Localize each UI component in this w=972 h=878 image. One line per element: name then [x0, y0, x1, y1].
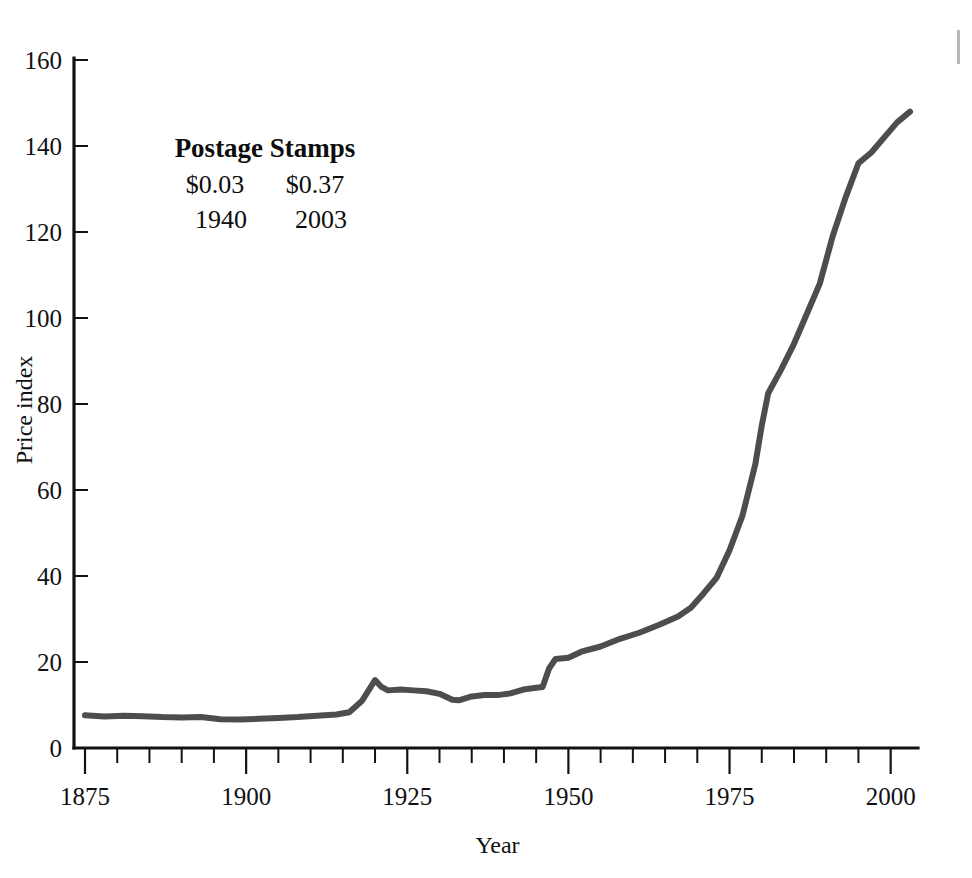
data-series-group [85, 112, 910, 720]
price-index-line-chart: 020406080100120140160 187519001925195019… [0, 0, 972, 878]
y-axis-tick-label: 0 [50, 735, 63, 762]
y-axis-tick-label: 20 [37, 649, 62, 676]
x-axis-tick-label: 1950 [543, 783, 593, 810]
x-axis-tick-label: 2000 [866, 783, 916, 810]
postage-stamps-annotation: Postage Stamps$0.031940$0.372003 [175, 133, 356, 234]
x-axis-title: Year [475, 832, 519, 858]
x-axis-tick-label: 1900 [221, 783, 271, 810]
y-axis-tick-label: 160 [25, 47, 63, 74]
y-axis-title: Price index [11, 356, 37, 465]
y-axis-tick-label: 60 [37, 477, 62, 504]
y-axis-tick-label: 120 [25, 219, 63, 246]
annotation-price-2: $0.37 [286, 170, 345, 199]
x-axis-tick-label: 1975 [705, 783, 755, 810]
annotation-year-2: 2003 [295, 205, 347, 234]
chart-figure: 020406080100120140160 187519001925195019… [0, 0, 972, 878]
y-axis-tick-label: 140 [25, 133, 63, 160]
annotation-year-1: 1940 [195, 205, 247, 234]
x-axis: 187519001925195019752000 [60, 748, 918, 810]
x-axis-tick-label: 1875 [60, 783, 110, 810]
y-axis-tick-label: 80 [37, 391, 62, 418]
annotation-price-1: $0.03 [186, 170, 245, 199]
price-index-line [85, 112, 910, 720]
y-axis-tick-label: 40 [37, 563, 62, 590]
x-axis-tick-label: 1925 [382, 783, 432, 810]
page-edge-artifact [957, 30, 960, 64]
annotation-title: Postage Stamps [175, 133, 356, 163]
y-axis-tick-label: 100 [25, 305, 63, 332]
